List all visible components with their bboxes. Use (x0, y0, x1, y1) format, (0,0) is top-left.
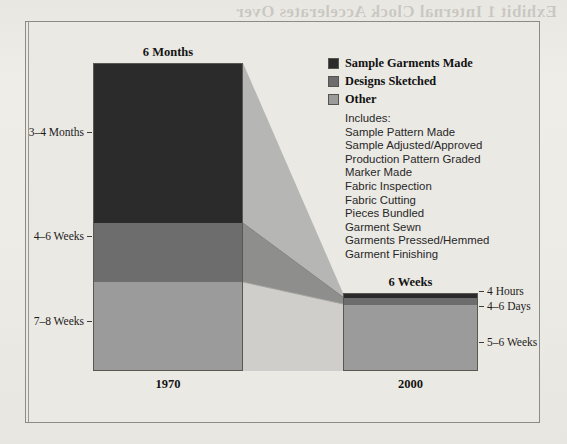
includes-item: Fabric Inspection (345, 180, 528, 194)
chart-frame: 6 Months 6 Weeks 3–4 Months 4–6 Weeks 7–… (25, 21, 540, 423)
axis-label-right-other: 5–6 Weeks (487, 336, 537, 348)
legend-swatch-sample-garments (328, 58, 339, 69)
axis-tick-right-1 (479, 291, 484, 292)
axis-label-right-designs-sketched: 4–6 Days (487, 300, 531, 312)
axis-label-left-other: 7–8 Weeks (26, 315, 84, 327)
legend: Sample Garments Made Designs Sketched Ot… (328, 55, 528, 262)
legend-swatch-designs-sketched (328, 76, 339, 87)
legend-item-other[interactable]: Other (328, 91, 528, 107)
legend-label-other: Other (345, 92, 376, 107)
includes-item: Fabric Cutting (345, 194, 528, 208)
legend-item-sample-garments[interactable]: Sample Garments Made (328, 55, 528, 71)
axis-label-left-sample-garments: 3–4 Months (26, 126, 84, 138)
includes-item: Garment Finishing (345, 248, 528, 262)
bar-1970[interactable] (93, 63, 243, 371)
axis-label-right-sample-garments: 4 Hours (487, 285, 524, 297)
legend-includes-list: Includes: Sample Pattern Made Sample Adj… (345, 112, 528, 262)
legend-swatch-other (328, 94, 339, 105)
axis-tick-right-3 (479, 342, 484, 343)
axis-tick-left-1 (87, 132, 92, 133)
x-axis-label-1970: 1970 (93, 377, 243, 392)
includes-item: Sample Adjusted/Approved (345, 139, 528, 153)
includes-item: Pieces Bundled (345, 207, 528, 221)
bar-2000-segment-other[interactable] (343, 305, 478, 371)
includes-heading: Includes: (345, 112, 528, 126)
legend-item-designs-sketched[interactable]: Designs Sketched (328, 73, 528, 89)
axis-tick-left-2 (87, 236, 92, 237)
legend-label-sample-garments: Sample Garments Made (345, 56, 473, 71)
bar-1970-segment-sample-garments[interactable] (93, 63, 243, 223)
axis-label-left-designs-sketched: 4–6 Weeks (26, 230, 84, 242)
bar-1970-total-label: 6 Months (93, 45, 243, 60)
plot-area: 6 Months 6 Weeks 3–4 Months 4–6 Weeks 7–… (26, 22, 539, 422)
includes-item: Production Pattern Graded (345, 153, 528, 167)
bar-2000-segment-designs-sketched[interactable] (343, 298, 478, 305)
includes-item: Garments Pressed/Hemmed (345, 234, 528, 248)
bar-1970-segment-designs-sketched[interactable] (93, 223, 243, 282)
axis-tick-right-2 (479, 306, 484, 307)
bar-2000[interactable] (343, 293, 478, 371)
legend-label-designs-sketched: Designs Sketched (345, 74, 436, 89)
bar-2000-total-label: 6 Weeks (343, 275, 478, 290)
bar-1970-segment-other[interactable] (93, 282, 243, 371)
includes-item: Garment Sewn (345, 221, 528, 235)
includes-item: Marker Made (345, 166, 528, 180)
includes-item: Sample Pattern Made (345, 126, 528, 140)
x-axis-label-2000: 2000 (343, 377, 478, 392)
axis-tick-left-3 (87, 321, 92, 322)
